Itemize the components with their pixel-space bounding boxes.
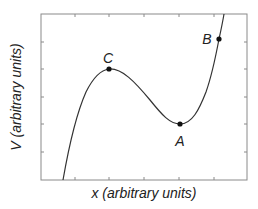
point-a-label: A	[174, 133, 184, 149]
point-b-marker	[216, 36, 221, 41]
y-axis-title: V (arbitrary units)	[8, 43, 24, 150]
point-c-label: C	[103, 50, 114, 66]
point-b-label: B	[202, 31, 211, 47]
point-a-marker	[177, 121, 182, 126]
x-axis-title: x (arbitrary units)	[90, 185, 196, 201]
x-ticks	[75, 14, 214, 180]
potential-curve	[63, 14, 224, 180]
plot-frame	[41, 14, 247, 180]
point-c-marker	[106, 66, 111, 71]
potential-chart: C A B x (arbitrary units) V (arbitrary u…	[0, 0, 258, 209]
